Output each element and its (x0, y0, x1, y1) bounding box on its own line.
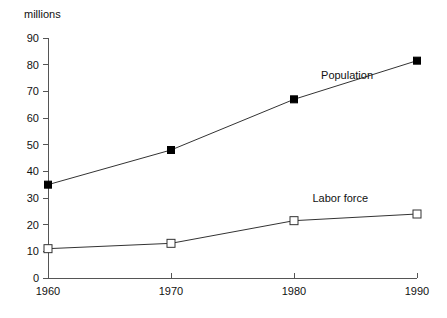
data-point-marker (290, 217, 298, 225)
series-annotations-group: PopulationLabor force (312, 69, 373, 204)
y-tick-label: 40 (27, 165, 39, 177)
chart-container: millions 0102030405060708090 19601970198… (0, 0, 447, 318)
data-point-marker (167, 239, 175, 247)
y-tick-label: 70 (27, 85, 39, 97)
line-chart: millions 0102030405060708090 19601970198… (0, 0, 447, 318)
series-annotation-label: Population (321, 69, 373, 81)
y-tick-label: 50 (27, 139, 39, 151)
series-line-labor-force (48, 214, 417, 249)
y-tick-label: 80 (27, 59, 39, 71)
x-tick-label: 1990 (405, 285, 429, 297)
x-tick-label: 1980 (282, 285, 306, 297)
y-tick-label: 90 (27, 32, 39, 44)
data-point-marker (291, 96, 298, 103)
x-axis-ticks: 1960197019801990 (36, 273, 429, 297)
y-axis-title-group: millions (24, 8, 61, 20)
data-point-marker (45, 181, 52, 188)
y-tick-label: 20 (27, 219, 39, 231)
y-tick-label: 10 (27, 245, 39, 257)
data-point-marker (414, 57, 421, 64)
data-point-marker (168, 147, 175, 154)
x-tick-label: 1960 (36, 285, 60, 297)
series-markers-group (44, 57, 421, 253)
y-tick-label: 30 (27, 192, 39, 204)
x-tick-label: 1970 (159, 285, 183, 297)
series-annotation-label: Labor force (312, 192, 368, 204)
y-tick-label: 0 (33, 272, 39, 284)
y-tick-label: 60 (27, 112, 39, 124)
y-axis-title: millions (24, 8, 61, 20)
series-lines-group (48, 61, 417, 249)
data-point-marker (44, 245, 52, 253)
data-point-marker (413, 210, 421, 218)
